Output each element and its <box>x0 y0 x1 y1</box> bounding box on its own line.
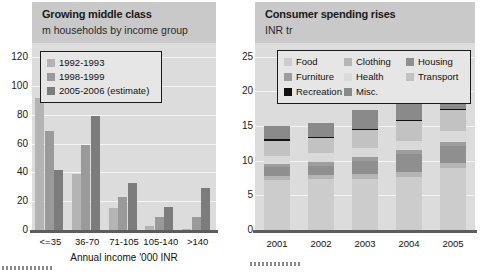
right-legend-swatch <box>344 73 352 81</box>
right-bar-segment <box>352 174 378 179</box>
right-bar-segment <box>440 110 466 131</box>
right-bar-segment <box>308 138 334 153</box>
right-bar-segment <box>264 126 290 139</box>
left-x-axis-title: Annual income '000 INR <box>32 252 216 263</box>
right-legend-swatch <box>406 73 414 81</box>
right-bar-segment <box>308 123 334 136</box>
right-bar-segment <box>396 177 422 230</box>
right-bar-segment <box>352 148 378 157</box>
left-legend-item: 1998-1999 <box>47 71 104 82</box>
left-legend-label: 1992-1993 <box>59 57 104 68</box>
right-legend-label: Transport <box>418 71 458 82</box>
left-bar <box>128 183 137 230</box>
left-axis-baseline <box>30 230 218 233</box>
right-legend-item: Housing <box>406 56 453 67</box>
right-bar-segment <box>352 110 378 129</box>
right-x-tick-label: 2004 <box>387 238 431 249</box>
right-bar-segment <box>352 129 378 130</box>
right-legend-swatch <box>344 88 352 96</box>
left-gridline <box>32 144 216 145</box>
right-legend-item: Clothing <box>344 56 391 67</box>
left-bar <box>45 131 54 230</box>
right-stacked-bar <box>352 110 378 231</box>
right-legend-label: Health <box>356 71 383 82</box>
left-chart-subtitle: m households by income group <box>42 24 188 36</box>
right-bar-segment <box>308 175 334 179</box>
right-legend-swatch <box>284 88 292 96</box>
right-x-tick-label: 2003 <box>343 238 387 249</box>
right-axis-baseline <box>253 230 477 233</box>
chart-panel-consumer-spending: Consumer spending rises INR tr FoodCloth… <box>233 0 485 268</box>
left-bar <box>54 170 63 230</box>
right-x-tick-label: 2002 <box>299 238 343 249</box>
right-legend-label: Misc. <box>356 86 378 97</box>
right-bar-segment <box>396 120 422 121</box>
right-bar-segment <box>308 179 334 230</box>
right-y-tick: 5 <box>227 189 253 200</box>
right-bar-segment <box>396 121 422 140</box>
right-legend-swatch <box>284 58 292 66</box>
right-bar-segment <box>396 150 422 153</box>
left-y-tick: 100 <box>2 80 28 91</box>
left-legend-label: 1998-1999 <box>59 71 104 82</box>
left-y-tick: 0 <box>2 224 28 235</box>
chart-panel-growing-middle-class: Growing middle class m households by inc… <box>0 0 222 268</box>
right-bar-segment <box>308 137 334 138</box>
right-y-tick: 25 <box>227 51 253 62</box>
left-bar <box>118 197 127 230</box>
right-bar-segment <box>352 157 378 160</box>
left-x-tick-label: >140 <box>175 236 220 247</box>
right-bar-segment <box>264 180 290 230</box>
right-bar-segment <box>308 162 334 165</box>
left-y-tick: 120 <box>2 51 28 62</box>
right-y-tick: 20 <box>227 85 253 96</box>
right-legend-label: Recreation <box>296 86 342 97</box>
right-bar-segment <box>396 172 422 177</box>
left-bar <box>192 217 201 230</box>
right-bar-segment <box>264 164 290 167</box>
left-y-tick: 80 <box>2 109 28 120</box>
right-bar-segment <box>264 176 290 180</box>
right-legend-item: Misc. <box>344 86 378 97</box>
right-x-tick-label: 2001 <box>255 238 299 249</box>
left-bar <box>81 145 90 230</box>
right-chart-header: Consumer spending rises INR tr <box>255 2 475 43</box>
right-bar-segment <box>352 179 378 230</box>
right-bar-segment <box>396 141 422 151</box>
right-chart-title: Consumer spending rises <box>265 8 396 20</box>
left-legend-swatch <box>47 87 55 95</box>
right-legend-swatch <box>406 58 414 66</box>
right-bar-segment <box>264 141 290 156</box>
left-y-tick: 20 <box>2 195 28 206</box>
right-stacked-bar <box>396 98 422 230</box>
right-bar-segment <box>264 167 290 176</box>
right-stacked-bar <box>308 123 334 230</box>
right-legend-label: Food <box>296 56 318 67</box>
left-legend-swatch <box>47 59 55 67</box>
left-legend-item: 2005-2006 (estimate) <box>47 85 149 96</box>
right-legend-swatch <box>284 73 292 81</box>
left-bar <box>35 98 44 230</box>
right-legend-swatch <box>344 58 352 66</box>
right-bar-segment <box>440 109 466 110</box>
left-legend-item: 1992-1993 <box>47 57 104 68</box>
right-bar-segment <box>440 168 466 230</box>
left-bar <box>109 208 118 230</box>
left-bar <box>155 217 164 230</box>
right-legend-item: Transport <box>406 71 458 82</box>
right-bar-segment <box>440 142 466 146</box>
right-legend-label: Clothing <box>356 56 391 67</box>
right-chart-legend: FoodClothingHousingFurnitureHealthTransp… <box>277 50 471 104</box>
right-stacked-bar <box>264 126 290 230</box>
decorative-dots-left <box>2 266 54 270</box>
left-bar <box>164 207 173 230</box>
right-bar-segment <box>352 130 378 148</box>
right-x-tick-label: 2005 <box>431 238 475 249</box>
right-bar-segment <box>308 153 334 162</box>
right-legend-item: Food <box>284 56 318 67</box>
left-chart-legend: 1992-19931998-19992005-2006 (estimate) <box>40 51 162 103</box>
left-gridline <box>32 115 216 116</box>
right-bar-segment <box>264 139 290 140</box>
right-y-tick: 10 <box>227 155 253 166</box>
right-bar-segment <box>440 131 466 142</box>
